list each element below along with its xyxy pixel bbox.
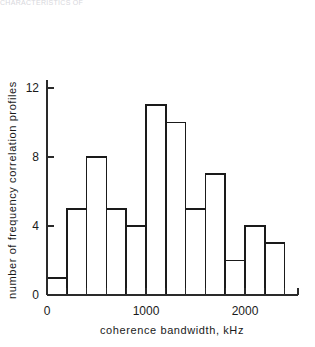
histogram-bar [87,157,107,295]
histogram-bar [47,278,67,295]
histogram-figure: CHARACTERISTICS OF 04812 010002000 coher… [0,0,315,347]
y-ticks-group [47,88,54,295]
histogram-bar [67,209,87,295]
histogram-bar [166,123,186,296]
histogram-bar [205,174,225,295]
histogram-bar [186,209,206,295]
coherence-bandwidth-histogram: 04812 010002000 coherence bandwidth, kHz… [0,0,315,347]
histogram-bar [265,243,285,295]
y-tick-label: 8 [32,150,39,164]
y-axis-title: number of frequency correlation profiles [6,81,18,299]
histogram-bar [126,226,146,295]
x-axis-title: coherence bandwidth, kHz [100,324,244,336]
histogram-bar [146,105,166,295]
histogram-bar [245,226,265,295]
x-ticks-group [47,288,298,295]
y-tick-label: 4 [32,219,39,233]
axes-group [47,80,298,295]
x-tick-label: 1000 [133,304,160,318]
x-tick-labels-group: 010002000 [44,304,259,318]
histogram-bar [225,261,245,296]
y-tick-label: 12 [26,81,40,95]
x-tick-label: 0 [44,304,51,318]
x-tick-label: 2000 [232,304,259,318]
y-tick-label: 0 [32,288,39,302]
bars-group [47,105,285,295]
y-tick-labels-group: 04812 [26,81,40,302]
histogram-bar [106,209,126,295]
